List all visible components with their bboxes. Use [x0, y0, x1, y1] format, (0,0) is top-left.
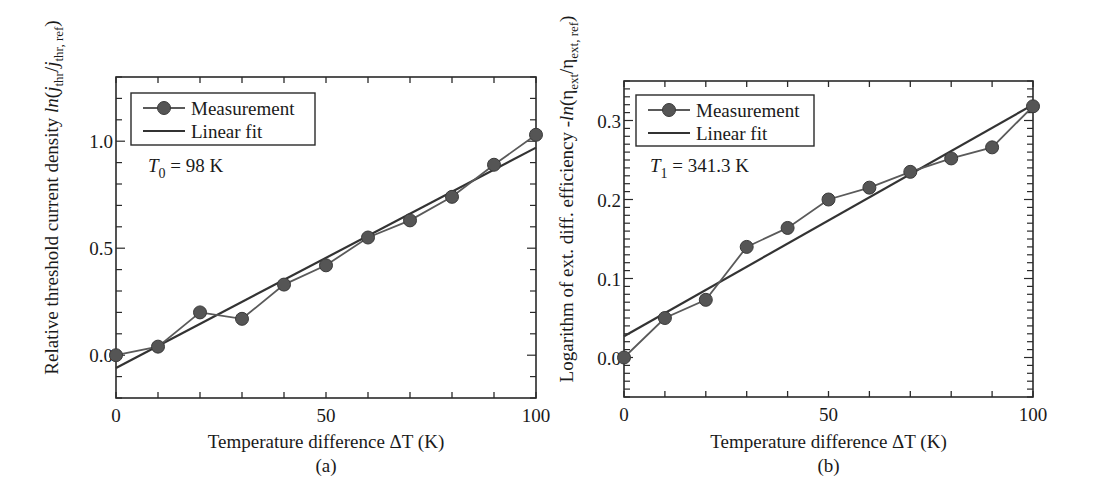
legend-label-measurement: Measurement	[191, 98, 295, 119]
data-point	[986, 141, 999, 154]
x-axis-label: Temperature difference ΔT (K)	[208, 431, 444, 453]
annotation-t0: T0 = 98 K	[148, 155, 224, 181]
x-tick-label: 100	[1019, 404, 1048, 425]
x-tick-label: 0	[619, 404, 629, 425]
data-point	[236, 312, 249, 325]
figure: 0501000.00.51.0 Measurement Linear fit T…	[0, 0, 1097, 498]
data-point	[488, 158, 501, 171]
data-point	[658, 312, 671, 325]
chart-panel-b: 0501000.00.10.20.3 Measurement Linear fi…	[556, 16, 1047, 477]
annotation-t1: T1 = 341.3 K	[650, 155, 749, 181]
x-tick-label: 50	[317, 405, 336, 426]
legend-label-measurement: Measurement	[696, 100, 800, 121]
data-point	[863, 181, 876, 194]
y-tick-label: 0.2	[597, 190, 621, 211]
x-tick-label: 50	[819, 404, 838, 425]
data-point	[110, 349, 123, 362]
x-tick-label: 100	[522, 405, 551, 426]
y-axis-label: Relative threshold current density ln(jt…	[41, 20, 66, 374]
legend: Measurement Linear fit	[131, 93, 315, 145]
data-point	[320, 259, 333, 272]
x-axis-label: Temperature difference ΔT (K)	[710, 431, 946, 453]
data-point	[740, 240, 753, 253]
legend-marker	[158, 102, 171, 115]
data-point	[404, 214, 417, 227]
y-tick-label: 0.1	[597, 269, 621, 290]
data-point	[618, 351, 631, 364]
legend: Measurement Linear fit	[636, 95, 814, 146]
y-axis-label: Logarithm of ext. diff. efficiency -ln(η…	[556, 16, 581, 383]
figure-canvas: 0501000.00.51.0 Measurement Linear fit T…	[0, 0, 1097, 498]
data-point	[446, 190, 459, 203]
data-point	[1027, 100, 1040, 113]
data-point	[945, 152, 958, 165]
y-tick-label: 1.0	[89, 131, 113, 152]
legend-marker	[663, 104, 676, 117]
panel-label-b: (b)	[817, 455, 839, 477]
y-tick-label: 0.5	[89, 238, 113, 259]
data-point	[699, 293, 712, 306]
data-point	[781, 221, 794, 234]
x-tick-label: 0	[111, 405, 121, 426]
data-point	[194, 306, 207, 319]
panel-label-a: (a)	[315, 455, 336, 477]
data-point	[530, 128, 543, 141]
data-point	[822, 193, 835, 206]
data-point	[362, 231, 375, 244]
legend-label-linear-fit: Linear fit	[191, 121, 263, 142]
data-point	[904, 165, 917, 178]
chart-panel-a: 0501000.00.51.0 Measurement Linear fit T…	[41, 20, 550, 477]
data-point	[278, 278, 291, 291]
y-tick-label: 0.3	[597, 111, 621, 132]
data-point	[152, 340, 165, 353]
legend-label-linear-fit: Linear fit	[696, 123, 768, 144]
